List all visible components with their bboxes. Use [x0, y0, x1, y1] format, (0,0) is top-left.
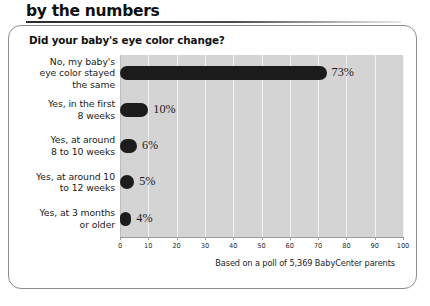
bar-row: No, my baby'seye color stayedthe same73%	[9, 55, 418, 91]
bar-value-label: 73%	[332, 65, 354, 80]
bar-category-label: No, my baby'seye color stayedthe same	[0, 56, 115, 91]
x-tick-label: 20	[172, 242, 180, 250]
bar-category-label: Yes, at around 10to 12 weeks	[0, 171, 115, 194]
bar	[120, 139, 137, 153]
source-annotation: Based on a poll of 5,369 BabyCenter pare…	[9, 258, 395, 268]
x-tick-label: 60	[286, 242, 294, 250]
bar	[120, 103, 148, 117]
x-tick	[375, 237, 376, 240]
x-tick	[262, 237, 263, 240]
page-title: by the numbers	[26, 2, 159, 20]
bar	[120, 175, 134, 189]
bar-category-label: Yes, in the first8 weeks	[0, 98, 115, 121]
x-tick	[205, 237, 206, 240]
x-tick-label: 70	[314, 242, 322, 250]
x-tick-label: 90	[370, 242, 378, 250]
title-divider	[26, 21, 401, 23]
x-tick	[233, 237, 234, 240]
x-tick-label: 100	[397, 242, 410, 250]
bar-row: Yes, at around 10to 12 weeks5%	[9, 164, 418, 200]
infographic-root: by the numbers Did your baby's eye color…	[0, 0, 430, 306]
x-tick-label: 40	[229, 242, 237, 250]
chart-card: Did your baby's eye color change? No, my…	[8, 25, 417, 289]
x-tick-label: 0	[118, 242, 122, 250]
bar-value-label: 5%	[139, 174, 155, 189]
bar-row: Yes, in the first8 weeks10%	[9, 91, 418, 127]
x-tick-label: 50	[257, 242, 265, 250]
bar	[120, 212, 131, 226]
bar-row: Yes, at around8 to 10 weeks6%	[9, 128, 418, 164]
bar-rows: No, my baby'seye color stayedthe same73%…	[9, 55, 418, 237]
x-tick	[120, 237, 121, 240]
x-tick	[346, 237, 347, 240]
bar-chart: No, my baby'seye color stayedthe same73%…	[9, 26, 418, 290]
x-tick	[318, 237, 319, 240]
x-tick-label: 10	[144, 242, 152, 250]
x-tick	[290, 237, 291, 240]
bar-value-label: 4%	[136, 211, 152, 226]
x-tick	[403, 237, 404, 240]
bar-value-label: 10%	[153, 102, 175, 117]
x-tick-label: 30	[201, 242, 209, 250]
x-tick	[148, 237, 149, 240]
x-tick-label: 80	[342, 242, 350, 250]
bar	[120, 66, 327, 80]
bar-row: Yes, at 3 monthsor older4%	[9, 201, 418, 237]
bar-category-label: Yes, at 3 monthsor older	[0, 207, 115, 230]
bar-category-label: Yes, at around8 to 10 weeks	[0, 134, 115, 157]
x-tick	[177, 237, 178, 240]
bar-value-label: 6%	[142, 138, 158, 153]
